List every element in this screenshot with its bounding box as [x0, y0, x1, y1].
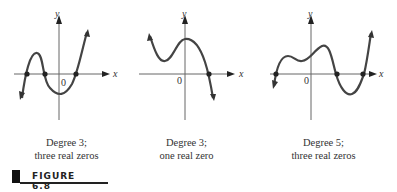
- degree-label: Degree 3;: [120, 136, 253, 149]
- figure-underline: [20, 182, 108, 184]
- x-axis-label: x: [112, 68, 118, 79]
- graph-svg: y x 0: [125, 0, 258, 125]
- caption-graph-3: Degree 5; three real zeros: [257, 136, 390, 162]
- origin-label: 0: [304, 75, 309, 86]
- origin-label: 0: [177, 75, 182, 86]
- y-axis-label: y: [307, 8, 313, 19]
- caption-graph-2: Degree 3; one real zero: [120, 136, 253, 162]
- x-axis-label: x: [378, 68, 384, 79]
- zeros-label: three real zeros: [0, 149, 133, 162]
- y-axis-label: y: [54, 8, 60, 19]
- degree-label: Degree 3;: [0, 136, 133, 149]
- graph-svg: y x 0: [0, 0, 133, 125]
- y-axis-label: y: [181, 8, 187, 19]
- degree-label: Degree 5;: [257, 136, 390, 149]
- caption-graph-1: Degree 3; three real zeros: [0, 136, 133, 162]
- figure-title: FIGURE 6.8: [32, 171, 75, 191]
- graph-degree3-one-zero: y x 0: [125, 0, 258, 125]
- graph-svg: y x 0: [260, 0, 397, 125]
- zeros-label: one real zero: [120, 149, 253, 162]
- graph-degree3-three-zeros: y x 0: [0, 0, 133, 125]
- figure-marker-block: [12, 170, 20, 183]
- zeros-label: three real zeros: [257, 149, 390, 162]
- origin-label: 0: [61, 77, 66, 88]
- graph-degree5-three-zeros: y x 0: [260, 0, 393, 125]
- x-axis-label: x: [238, 68, 244, 79]
